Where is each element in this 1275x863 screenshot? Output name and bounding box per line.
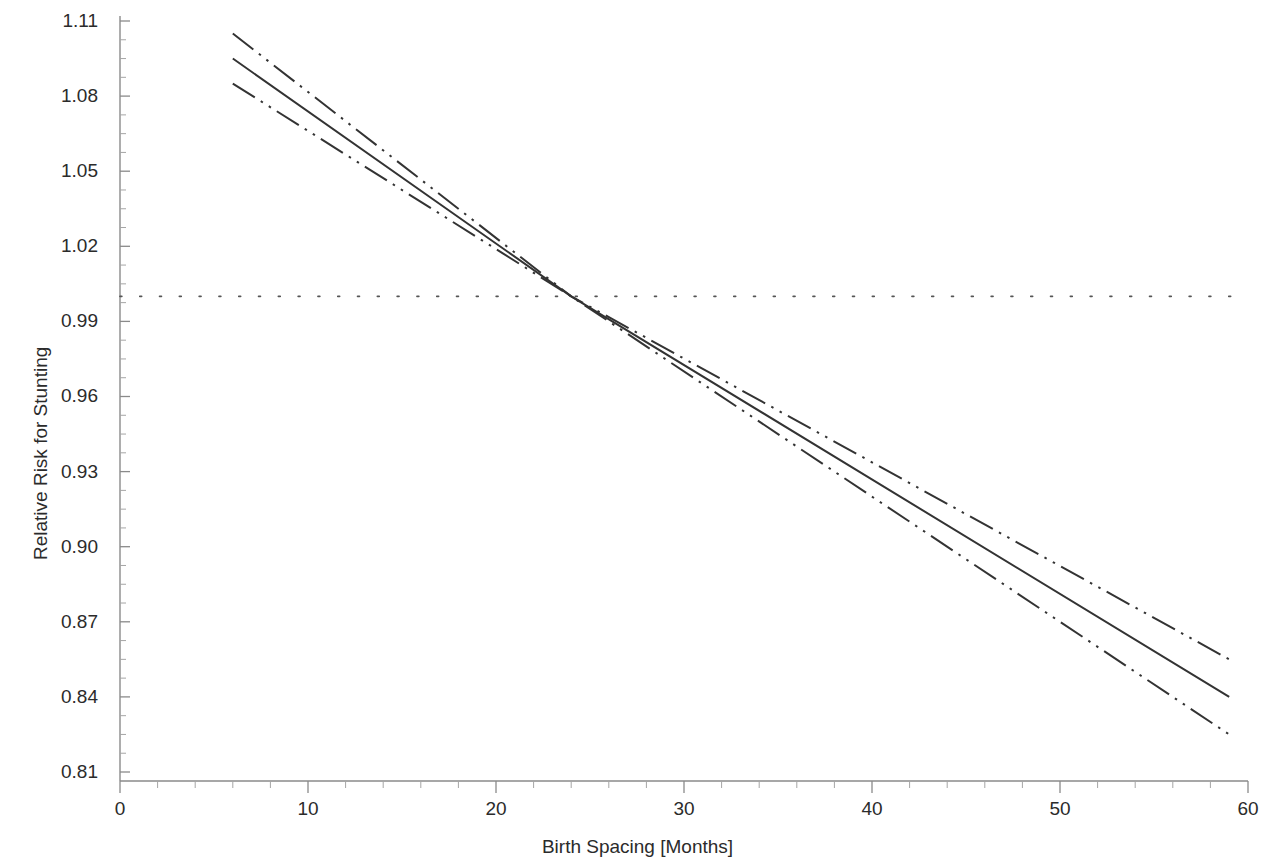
- y-tick-label: 0.87: [28, 611, 98, 633]
- plot-area: [0, 0, 1275, 863]
- y-tick-label: 0.93: [28, 461, 98, 483]
- y-tick-label: 0.84: [28, 686, 98, 708]
- y-tick-label: 1.02: [28, 235, 98, 257]
- x-tick-label: 60: [1218, 798, 1275, 820]
- axes: [120, 16, 1248, 781]
- y-tick-label: 1.05: [28, 160, 98, 182]
- y-tick-label: 1.08: [28, 85, 98, 107]
- series-line-0: [233, 59, 1229, 697]
- data-series: [233, 34, 1229, 735]
- series-line-2: [233, 84, 1229, 735]
- y-tick-label: 0.81: [28, 761, 98, 783]
- x-tick-label: 40: [842, 798, 902, 820]
- y-tick-label: 1.11: [28, 10, 98, 32]
- relative-risk-chart: Relative Risk for Stunting Birth Spacing…: [0, 0, 1275, 863]
- y-tick-label: 0.90: [28, 536, 98, 558]
- x-tick-label: 20: [466, 798, 526, 820]
- y-tick-label: 0.96: [28, 385, 98, 407]
- y-axis-title: Relative Risk for Stunting: [30, 347, 52, 560]
- x-tick-label: 0: [90, 798, 150, 820]
- y-tick-label: 0.99: [28, 310, 98, 332]
- x-tick-label: 10: [278, 798, 338, 820]
- y-axis-ticks: [120, 21, 130, 772]
- x-axis-title: Birth Spacing [Months]: [0, 836, 1275, 858]
- x-tick-label: 50: [1030, 798, 1090, 820]
- x-axis-ticks: [120, 781, 1248, 793]
- x-tick-label: 30: [654, 798, 714, 820]
- series-line-1: [233, 34, 1229, 660]
